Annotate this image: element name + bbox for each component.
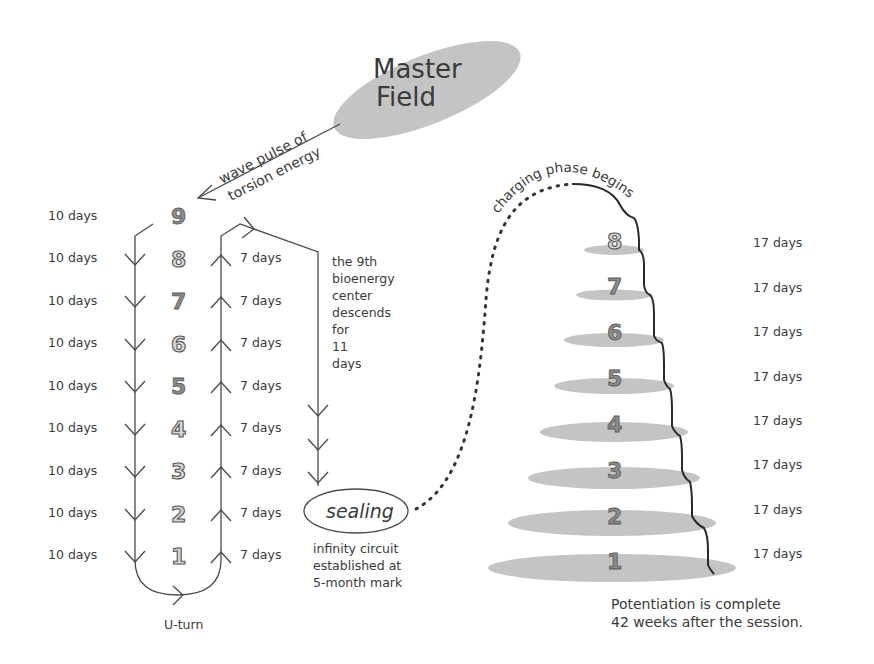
u-loop <box>125 217 328 605</box>
charging-level-numbers: 8 7 6 5 4 3 2 1 <box>607 229 622 574</box>
level-number: 2 <box>607 504 622 529</box>
duration-label: 7 days <box>240 378 281 393</box>
duration-label: 10 days <box>48 420 97 435</box>
level-number: 8 <box>607 229 622 254</box>
duration-label: 17 days <box>753 502 802 517</box>
duration-label: 10 days <box>48 208 97 223</box>
duration-label: 10 days <box>48 505 97 520</box>
diagram-canvas: Master Field wave pulse of torsion energ… <box>0 0 874 664</box>
duration-label: 7 days <box>240 463 281 478</box>
level-number: 5 <box>607 366 622 391</box>
duration-label: 7 days <box>240 505 281 520</box>
potentiation-note-1: Potentiation is complete <box>611 596 781 612</box>
duration-label: 10 days <box>48 378 97 393</box>
center-numbers: 8 7 6 5 4 3 2 1 <box>171 247 186 569</box>
left-durations: 10 days 10 days 10 days 10 days 10 days … <box>48 208 97 562</box>
level-number: 4 <box>607 412 622 437</box>
sealing-caption: 5-month mark <box>313 575 403 590</box>
master-field-label-2: Field <box>376 82 436 112</box>
duration-label: 7 days <box>240 420 281 435</box>
center-number: 1 <box>171 544 186 569</box>
level-number: 7 <box>607 274 622 299</box>
sealing-node: sealing infinity circuit established at … <box>304 489 408 590</box>
center-number: 7 <box>171 289 186 314</box>
charging-title: charging phase begins <box>488 159 638 216</box>
level-number: 1 <box>607 549 622 574</box>
note-line: for <box>332 322 350 337</box>
center-9-label: 9 <box>171 204 186 229</box>
duration-label: 17 days <box>753 457 802 472</box>
duration-label: 10 days <box>48 335 97 350</box>
charging-title-text: charging phase begins <box>488 159 638 216</box>
center-number: 4 <box>171 417 186 442</box>
duration-label: 17 days <box>753 235 802 250</box>
charging-durations: 17 days 17 days 17 days 17 days 17 days … <box>753 235 802 561</box>
note-line: days <box>332 356 362 371</box>
duration-label: 17 days <box>753 280 802 295</box>
potentiation-note-2: 42 weeks after the session. <box>611 614 803 630</box>
arrow-left-icon <box>198 185 216 200</box>
center-number: 2 <box>171 502 186 527</box>
bioenergy-timeline-diagram: Master Field wave pulse of torsion energ… <box>0 0 874 664</box>
u-turn-label: U-turn <box>164 617 203 632</box>
wave-pulse-arrow: wave pulse of torsion energy <box>198 124 340 204</box>
dotted-connector <box>416 184 572 509</box>
center-number: 5 <box>171 374 186 399</box>
sealing-caption: established at <box>313 558 401 573</box>
level-number: 6 <box>607 320 622 345</box>
duration-label: 17 days <box>753 324 802 339</box>
duration-label: 17 days <box>753 546 802 561</box>
duration-label: 10 days <box>48 250 97 265</box>
duration-label: 10 days <box>48 547 97 562</box>
duration-label: 7 days <box>240 293 281 308</box>
duration-label: 7 days <box>240 250 281 265</box>
master-field: Master Field <box>322 21 533 159</box>
duration-label: 7 days <box>240 547 281 562</box>
note-line: the 9th <box>332 254 377 269</box>
center-number: 8 <box>171 247 186 272</box>
duration-label: 17 days <box>753 369 802 384</box>
sealing-label: sealing <box>326 500 394 522</box>
level-number: 3 <box>607 458 622 483</box>
note-line: bioenergy <box>332 271 395 286</box>
duration-label: 17 days <box>753 413 802 428</box>
sealing-caption: infinity circuit <box>313 541 398 556</box>
center-number: 6 <box>171 332 186 357</box>
circuit-path <box>135 224 318 595</box>
ascent-durations: 7 days 7 days 7 days 7 days 7 days 7 day… <box>240 250 281 562</box>
note-line: center <box>332 288 373 303</box>
duration-label: 10 days <box>48 463 97 478</box>
note-line: 11 <box>332 339 348 354</box>
center-number: 3 <box>171 459 186 484</box>
duration-label: 7 days <box>240 335 281 350</box>
master-field-label-1: Master <box>373 54 462 84</box>
note-line: descends <box>332 305 391 320</box>
duration-label: 10 days <box>48 293 97 308</box>
ninth-center-note: the 9th bioenergy center descends for 11… <box>332 254 395 371</box>
